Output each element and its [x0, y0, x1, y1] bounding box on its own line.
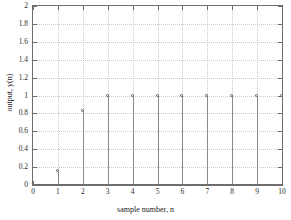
x-axis-tick-top	[33, 6, 34, 10]
x-axis-tick-top	[257, 6, 258, 10]
x-axis-tick-label: 5	[146, 188, 170, 196]
plot-area	[33, 6, 282, 185]
x-axis-tick-label: 8	[220, 188, 244, 196]
y-axis-tick-label: 2	[0, 2, 28, 10]
stem-line	[257, 96, 258, 186]
y-axis-tick-label: 1.8	[0, 20, 28, 28]
stem-line	[232, 96, 233, 186]
y-axis-tick-label: 1.2	[0, 74, 28, 82]
stem-marker	[280, 94, 282, 97]
x-axis-tick-top	[83, 6, 84, 10]
stem-marker	[131, 94, 134, 97]
y-axis-tick-right	[278, 24, 282, 25]
stem-marker	[255, 94, 258, 97]
x-axis-tick-label: 6	[170, 188, 194, 196]
stem-line	[58, 171, 59, 185]
x-axis-tick-top	[108, 6, 109, 10]
y-axis-tick-right	[278, 60, 282, 61]
y-axis-tick	[33, 78, 37, 79]
x-axis-title: sample number, n	[0, 205, 291, 214]
zero-baseline	[33, 184, 282, 185]
x-axis-tick-label: 3	[96, 188, 120, 196]
stem-line	[108, 96, 109, 186]
stem-line	[83, 111, 84, 185]
x-axis-tick-top	[232, 6, 233, 10]
y-axis-tick-label: 0.6	[0, 127, 28, 135]
x-axis-tick-label: 7	[195, 188, 219, 196]
y-axis-tick-right	[278, 42, 282, 43]
y-axis-tick	[33, 24, 37, 25]
x-axis-tick-label: 0	[21, 188, 45, 196]
y-axis-tick	[33, 131, 37, 132]
grid-line-vertical	[58, 6, 59, 185]
y-axis-tick-right	[278, 78, 282, 79]
y-axis-tick-label: 0.2	[0, 163, 28, 171]
y-axis-tick-label: 1.4	[0, 56, 28, 64]
plot-box	[32, 5, 283, 186]
x-axis-tick-label: 2	[71, 188, 95, 196]
x-axis-tick-label: 10	[270, 188, 291, 196]
x-axis-tick-label: 9	[245, 188, 269, 196]
stem-marker	[81, 109, 84, 112]
stem-marker	[106, 94, 109, 97]
stem-line	[133, 96, 134, 186]
stem-marker	[56, 169, 59, 172]
y-axis-tick	[33, 60, 37, 61]
y-axis-tick	[33, 149, 37, 150]
stem-line	[182, 96, 183, 186]
y-axis-tick	[33, 113, 37, 114]
y-axis-tick-label: 0.4	[0, 145, 28, 153]
x-axis-tick-top	[207, 6, 208, 10]
x-axis-tick-label: 4	[121, 188, 145, 196]
y-axis-tick-label: 1.6	[0, 38, 28, 46]
x-axis-tick-top	[58, 6, 59, 10]
x-axis-tick-top	[182, 6, 183, 10]
stem-line	[158, 96, 159, 186]
stem-marker	[230, 94, 233, 97]
y-axis-tick-label: 0.8	[0, 109, 28, 117]
y-axis-tick	[33, 42, 37, 43]
stem-marker	[156, 94, 159, 97]
y-axis-tick	[33, 96, 37, 97]
stem-plot-figure: output, y(n) sample number, n 00.20.40.6…	[0, 0, 291, 220]
x-axis-tick-label: 1	[46, 188, 70, 196]
y-axis-tick-label: 1	[0, 92, 28, 100]
x-axis-tick-top	[158, 6, 159, 10]
stem-line	[207, 96, 208, 186]
x-axis-tick-top	[133, 6, 134, 10]
stem-marker	[205, 94, 208, 97]
y-axis-tick	[33, 167, 37, 168]
